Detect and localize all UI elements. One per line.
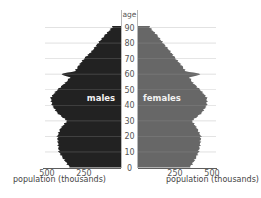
female-x-axis-title: population (thousands) — [166, 175, 259, 184]
age-tick-label: 80 — [124, 39, 134, 48]
females-label: females — [143, 93, 181, 103]
males-label: males — [87, 93, 115, 103]
age-axis-title: age — [123, 10, 137, 19]
age-tick-label: 90 — [124, 24, 134, 33]
age-tick-label: 10 — [124, 148, 134, 157]
age-tick-label: 30 — [124, 117, 134, 126]
age-tick-label: 50 — [124, 86, 134, 95]
age-tick-label: 70 — [124, 55, 134, 64]
age-tick-label: 40 — [124, 101, 134, 110]
age-tick-label: 60 — [124, 70, 134, 79]
population-pyramid-chart: age 0102030405060708090 250250500500 pop… — [0, 0, 261, 198]
age-tick-label: 0 — [127, 164, 132, 173]
male-x-axis-title: population (thousands) — [13, 175, 106, 184]
age-tick-label: 20 — [124, 132, 134, 141]
